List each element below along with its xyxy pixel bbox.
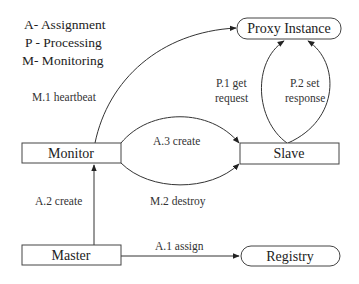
legend: A- Assignment P - Processing M- Monitori… — [22, 17, 106, 68]
edge-label-a3: A.3 create — [153, 135, 200, 147]
node-slave: Slave — [240, 143, 339, 164]
edge-label-m2: M.2 destroy — [150, 195, 206, 208]
edge-label-p1-line1: P.1 get — [216, 77, 247, 90]
node-proxy-instance: Proxy Instance — [237, 18, 341, 39]
node-label-registry: Registry — [266, 249, 313, 264]
node-master: Master — [22, 245, 121, 265]
edge-m2-destroy — [121, 163, 239, 185]
edge-m1-heartbeat — [95, 28, 236, 143]
workflow-diagram: A- Assignment P - Processing M- Monitori… — [0, 0, 359, 284]
node-label-master: Master — [52, 248, 91, 263]
edge-label-p2-line1: P.2 set — [290, 77, 320, 89]
node-registry: Registry — [241, 246, 340, 266]
node-monitor: Monitor — [22, 143, 121, 163]
node-label-proxy: Proxy Instance — [247, 21, 331, 36]
node-label-slave: Slave — [273, 146, 304, 161]
edge-label-m1: M.1 heartbeat — [32, 91, 97, 103]
legend-item-processing: P - Processing — [25, 35, 102, 50]
edge-label-p1-line2: request — [215, 92, 249, 105]
legend-item-assignment: A- Assignment — [24, 17, 106, 32]
edge-p1-get-request — [261, 41, 287, 143]
node-label-monitor: Monitor — [48, 146, 94, 161]
legend-item-monitoring: M- Monitoring — [22, 53, 104, 68]
edge-label-a2: A.2 create — [35, 195, 82, 207]
edge-label-a1: A.1 assign — [155, 240, 204, 253]
edge-label-p2-line2: response — [285, 92, 325, 105]
